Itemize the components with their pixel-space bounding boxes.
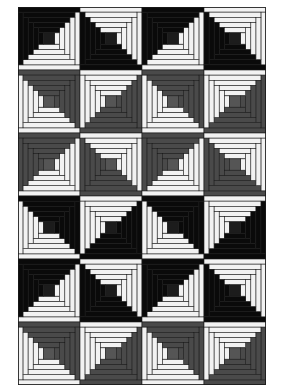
log-strip-top bbox=[209, 201, 261, 206]
log-strip-right bbox=[256, 206, 261, 248]
log-strip-left bbox=[23, 80, 28, 122]
log-strip-left bbox=[85, 80, 90, 122]
log-strip-bottom bbox=[95, 238, 127, 243]
log-strip-left bbox=[204, 75, 209, 128]
log-strip-left bbox=[224, 96, 229, 107]
log-strip-bottom bbox=[209, 186, 261, 191]
log-strip-right bbox=[241, 348, 246, 359]
log-strip-bottom bbox=[219, 49, 251, 54]
log-strip-top bbox=[147, 138, 199, 143]
log-strip-right bbox=[256, 80, 261, 122]
log-strip-bottom bbox=[147, 375, 199, 380]
log-strip-left bbox=[204, 12, 209, 65]
log-strip-top bbox=[152, 206, 194, 211]
log-strip-bottom bbox=[152, 118, 194, 123]
log-strip-top bbox=[33, 211, 65, 216]
log-strip-left bbox=[23, 332, 28, 374]
log-strip-right bbox=[65, 337, 70, 369]
log-strip-right bbox=[132, 80, 137, 122]
block-center bbox=[43, 285, 54, 296]
log-strip-bottom bbox=[18, 128, 80, 133]
log-strip-top bbox=[33, 85, 65, 90]
log-strip-top bbox=[28, 269, 70, 274]
log-strip-top bbox=[33, 274, 65, 279]
log-strip-top bbox=[147, 327, 199, 332]
log-strip-bottom bbox=[142, 254, 204, 259]
log-strip-left bbox=[157, 91, 162, 113]
log-strip-bottom bbox=[219, 175, 251, 180]
log-strip-right bbox=[132, 206, 137, 248]
log-strip-left bbox=[85, 332, 90, 374]
log-strip-top bbox=[80, 259, 142, 264]
log-strip-top bbox=[219, 85, 251, 90]
log-strip-top bbox=[224, 91, 245, 96]
log-strip-bottom bbox=[204, 128, 266, 133]
log-strip-bottom bbox=[142, 65, 204, 70]
log-strip-right bbox=[137, 264, 142, 317]
log-strip-top bbox=[28, 143, 70, 148]
log-strip-left bbox=[219, 343, 224, 365]
log-strip-left bbox=[157, 217, 162, 239]
log-strip-top bbox=[95, 22, 127, 27]
log-strip-left bbox=[100, 222, 105, 233]
log-strip-top bbox=[18, 196, 80, 201]
log-strip-left bbox=[95, 154, 100, 176]
log-strip-left bbox=[95, 280, 100, 302]
block-center bbox=[229, 33, 240, 44]
log-strip-right bbox=[199, 138, 204, 191]
log-strip-right bbox=[65, 85, 70, 117]
log-strip-top bbox=[204, 70, 266, 75]
log-strip-right bbox=[199, 12, 204, 65]
log-strip-bottom bbox=[147, 249, 199, 254]
log-strip-bottom bbox=[209, 312, 261, 317]
log-strip-right bbox=[137, 12, 142, 65]
log-strip-top bbox=[100, 91, 121, 96]
log-strip-left bbox=[23, 17, 28, 59]
log-strip-right bbox=[179, 96, 184, 107]
block-center bbox=[167, 96, 178, 107]
log-strip-bottom bbox=[157, 112, 189, 117]
log-strip-top bbox=[23, 201, 75, 206]
log-strip-right bbox=[199, 327, 204, 380]
log-strip-left bbox=[33, 343, 38, 365]
log-strip-top bbox=[142, 70, 204, 75]
log-strip-top bbox=[214, 143, 256, 148]
log-strip-left bbox=[162, 348, 167, 359]
log-strip-top bbox=[90, 269, 132, 274]
log-strip-right bbox=[194, 206, 199, 248]
log-strip-bottom bbox=[214, 118, 256, 123]
log-strip-top bbox=[142, 259, 204, 264]
log-strip-right bbox=[132, 17, 137, 59]
log-strip-left bbox=[38, 285, 43, 296]
log-strip-right bbox=[194, 143, 199, 185]
block-center bbox=[43, 348, 54, 359]
log-strip-right bbox=[137, 138, 142, 191]
log-strip-bottom bbox=[23, 375, 75, 380]
log-strip-top bbox=[95, 148, 127, 153]
log-strip-top bbox=[219, 148, 251, 153]
log-strip-bottom bbox=[157, 49, 189, 54]
log-strip-bottom bbox=[224, 107, 245, 112]
quilt-block bbox=[18, 259, 80, 322]
log-strip-left bbox=[147, 269, 152, 311]
log-strip-top bbox=[204, 196, 266, 201]
log-strip-top bbox=[219, 337, 251, 342]
log-strip-bottom bbox=[209, 123, 261, 128]
log-strip-left bbox=[80, 264, 85, 317]
log-strip-top bbox=[219, 22, 251, 27]
log-strip-left bbox=[85, 206, 90, 248]
log-strip-top bbox=[209, 75, 261, 80]
quilt-block bbox=[18, 322, 80, 385]
log-strip-left bbox=[209, 143, 214, 185]
log-strip-left bbox=[152, 274, 157, 306]
log-strip-bottom bbox=[224, 233, 245, 238]
log-strip-bottom bbox=[95, 112, 127, 117]
log-strip-bottom bbox=[18, 254, 80, 259]
log-strip-bottom bbox=[219, 238, 251, 243]
log-strip-right bbox=[194, 332, 199, 374]
log-strip-right bbox=[246, 91, 251, 113]
block-center bbox=[43, 33, 54, 44]
log-strip-top bbox=[214, 269, 256, 274]
log-strip-right bbox=[241, 285, 246, 296]
log-strip-bottom bbox=[214, 181, 256, 186]
